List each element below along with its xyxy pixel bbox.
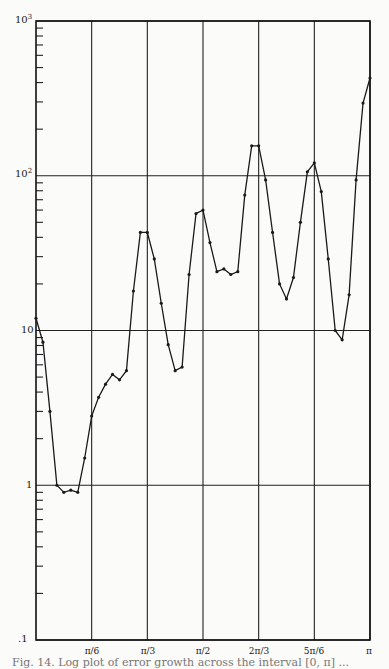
x-label-pi-3: π/3 <box>141 646 156 656</box>
grid-lines <box>36 21 370 640</box>
y-label-0.1: .1 <box>18 633 28 644</box>
x-label-2pi-3: 2π/3 <box>249 646 269 656</box>
y-label-10: 10 <box>21 324 34 335</box>
minor-ticks <box>36 28 43 593</box>
x-label-pi-2: π/2 <box>196 646 211 656</box>
x-label-pi: π <box>366 646 372 656</box>
y-label-1: 1 <box>26 479 32 490</box>
x-label-pi-6: π/6 <box>85 646 100 656</box>
x-label-5pi-6: 5π/6 <box>304 646 324 656</box>
figure-caption: Fig. 14. Log plot of error growth across… <box>12 656 349 669</box>
y-label-100: 102 <box>15 167 32 179</box>
y-label-1000: 103 <box>15 13 32 25</box>
